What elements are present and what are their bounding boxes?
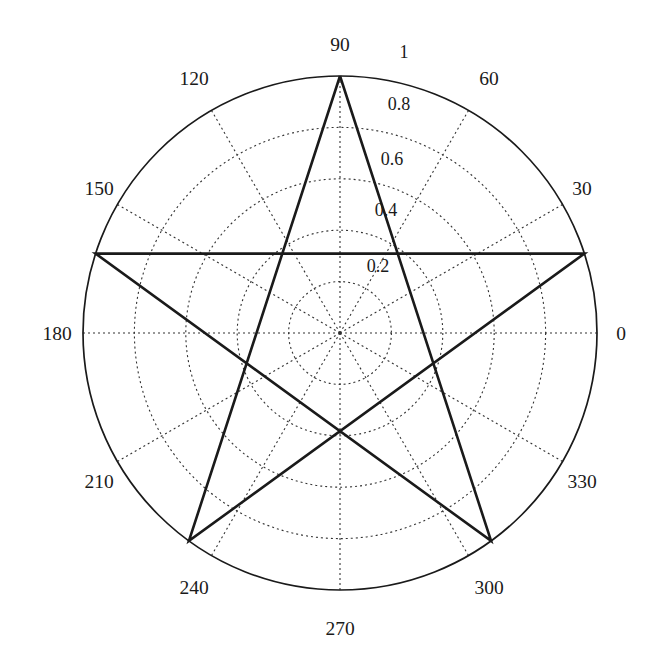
angle-label-270: 270 [325,618,354,639]
radial-tick-labels: 0.2 0.4 0.6 0.8 1 [367,42,411,276]
series-pentagram [96,76,585,541]
pentagram-path [96,76,585,541]
angle-label-30: 30 [572,178,592,199]
angle-label-120: 120 [179,68,208,89]
angular-grid-spokes [83,76,597,590]
angle-label-150: 150 [84,178,113,199]
radial-label-0.2: 0.2 [367,256,390,276]
angle-label-0: 0 [616,323,626,344]
spoke-150 [117,205,340,334]
angle-label-300: 300 [474,577,503,598]
angle-label-90: 90 [330,34,350,55]
radial-label-0.6: 0.6 [381,149,404,169]
angle-label-60: 60 [479,68,499,89]
spoke-210 [117,333,340,462]
angle-label-330: 330 [567,471,596,492]
spoke-60 [340,110,469,333]
spoke-120 [212,110,341,333]
polar-chart-canvas: 0 30 60 90 120 150 180 210 240 270 300 3… [0,0,657,650]
angle-label-210: 210 [84,471,113,492]
radial-label-0.4: 0.4 [375,200,398,220]
angle-label-180: 180 [42,323,71,344]
polar-plot-figure: 0 30 60 90 120 150 180 210 240 270 300 3… [0,0,657,650]
radial-label-1: 1 [400,42,409,62]
angle-label-240: 240 [179,577,208,598]
radial-label-0.8: 0.8 [388,94,411,114]
spoke-330 [340,333,563,462]
